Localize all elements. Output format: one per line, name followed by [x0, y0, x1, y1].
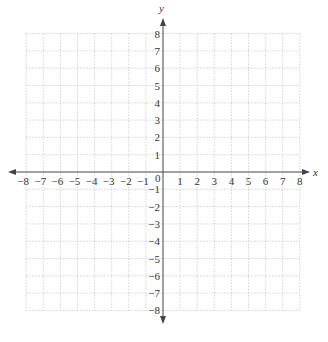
y-axis-up-arrow-icon [160, 18, 166, 26]
x-tick-label: 7 [280, 175, 286, 187]
origin-label: 0 [155, 172, 161, 184]
x-tick-label: −6 [52, 175, 64, 187]
x-tick-label: 3 [212, 175, 218, 187]
coordinate-plane: x y 0 −8−7−6−5−4−3−2−112345678 87654321−… [0, 0, 328, 342]
x-tick-label: −8 [17, 175, 29, 187]
y-tick-label: 2 [155, 131, 161, 143]
x-tick-label: 5 [246, 175, 252, 187]
x-tick-label: −7 [34, 175, 46, 187]
x-tick-label: 8 [297, 175, 303, 187]
x-axis-label: x [312, 166, 318, 178]
x-tick-label: −5 [69, 175, 81, 187]
y-tick-label: −4 [148, 235, 160, 247]
x-axis-left-arrow-icon [8, 169, 16, 175]
y-tick-label: −8 [148, 304, 160, 316]
y-tick-label: 7 [155, 45, 161, 57]
y-tick-label: −6 [148, 270, 160, 282]
x-tick-label: 2 [194, 175, 200, 187]
y-tick-label: 8 [155, 28, 161, 40]
x-tick-label: 6 [263, 175, 269, 187]
y-tick-label: −3 [148, 218, 160, 230]
x-tick-label: 4 [229, 175, 235, 187]
y-tick-label: 3 [155, 114, 161, 126]
x-tick-label: −1 [137, 175, 149, 187]
y-axis-label: y [158, 2, 164, 14]
y-tick-label: 4 [155, 97, 161, 109]
y-tick-label: 5 [155, 80, 161, 92]
x-tick-label: 1 [177, 175, 183, 187]
x-axis-right-arrow-icon [302, 169, 310, 175]
y-axis-down-arrow-icon [160, 316, 166, 324]
y-tick-label: 6 [155, 62, 161, 74]
y-tick-label: 1 [155, 149, 161, 161]
x-tick-label: −4 [86, 175, 98, 187]
y-tick-label: −7 [148, 287, 160, 299]
y-tick-label: −2 [148, 201, 160, 213]
y-tick-label: −1 [148, 183, 160, 195]
x-tick-label: −3 [103, 175, 115, 187]
x-tick-label: −2 [120, 175, 132, 187]
y-tick-label: −5 [148, 253, 160, 265]
